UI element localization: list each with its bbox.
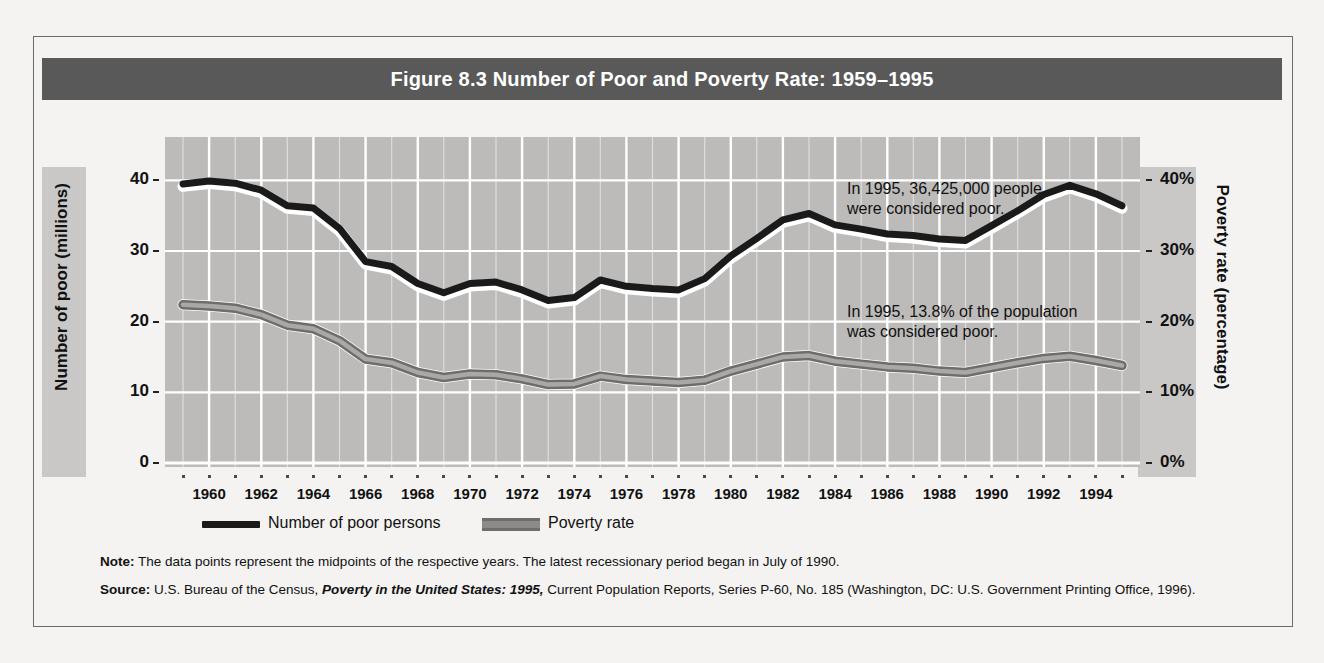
x-axis-tick-mark [182,475,185,478]
x-axis-tick-mark [677,475,680,478]
x-axis-tick-mark [938,475,941,478]
page-title: Figure 8.3 Number of Poor and Poverty Ra… [42,58,1282,100]
x-axis-tick-mark [312,475,315,478]
source-publication-title: Poverty in the United States: 1995, [322,582,543,597]
x-axis-tick-mark [625,475,628,478]
x-axis-tick-mark [390,475,393,478]
x-axis-tick-label: 1980 [704,485,758,502]
y2-axis-title: Poverty rate (percentage) [1212,137,1232,437]
x-axis-tick-label: 1988 [912,485,966,502]
x-axis-tick-mark [729,475,732,478]
x-axis-tick-label: 1966 [339,485,393,502]
y2-axis-tick-mark [1146,321,1152,323]
y-axis-tick-label: 40 [103,169,149,189]
annotation-poor-count-1995: In 1995, 36,425,000 people were consider… [847,179,1042,219]
x-axis-tick-mark [860,475,863,478]
x-axis-tick-label: 1990 [965,485,1019,502]
source-label: Source: [100,582,150,597]
chart-container: Number of poor (millions) Poverty rate (… [42,127,1282,487]
y-axis-tick-mark [153,321,159,323]
x-axis-tick-label: 1992 [1017,485,1071,502]
y-axis-title: Number of poor (millions) [52,137,72,437]
x-axis-tick-mark [651,475,654,478]
x-axis-tick-mark [1068,475,1071,478]
y2-axis-tick-mark [1146,391,1152,393]
x-axis-tick-mark [260,475,263,478]
x-axis-tick-label: 1984 [808,485,862,502]
note-line: Note: The data points represent the midp… [100,552,1230,571]
y-axis-tick-mark [153,179,159,181]
x-axis-tick-mark [547,475,550,478]
y-axis-tick-mark [153,462,159,464]
y-axis-tick-mark [153,250,159,252]
x-axis-tick-mark [755,475,758,478]
chart-legend: Number of poor persons Poverty rate [42,512,1282,544]
figure-page: Figure 8.3 Number of Poor and Poverty Ra… [0,0,1324,663]
x-axis-tick-mark [208,475,211,478]
source-post: Current Population Reports, Series P-60,… [543,582,1195,597]
note-text: The data points represent the midpoints … [135,554,840,569]
y2-axis-tick-mark [1146,179,1152,181]
y2-axis-tick-label: 30% [1160,240,1214,260]
x-axis-tick-mark [1094,475,1097,478]
x-axis-tick-label: 1968 [391,485,445,502]
y2-axis-tick-label: 0% [1160,452,1214,472]
x-axis-tick-label: 1960 [182,485,236,502]
x-axis-tick-mark [1121,475,1124,478]
x-axis-tick-label: 1986 [860,485,914,502]
x-axis-tick-mark [286,475,289,478]
y-axis-tick-label: 0 [103,452,149,472]
x-axis-tick-mark [416,475,419,478]
x-axis-tick-mark [781,475,784,478]
y-axis-tick-label: 20 [103,311,149,331]
legend-swatch-black-line-icon [202,521,260,528]
x-axis-tick-mark [912,475,915,478]
x-axis-tick-label: 1994 [1069,485,1123,502]
x-axis-tick-label: 1962 [234,485,288,502]
x-axis-tick-mark [234,475,237,478]
x-axis-tick-mark [495,475,498,478]
x-axis-tick-mark [834,475,837,478]
x-axis-tick-label: 1972 [495,485,549,502]
x-axis-tick-mark [521,475,524,478]
y-axis-tick-label: 30 [103,240,149,260]
figure-title-bar: Figure 8.3 Number of Poor and Poverty Ra… [42,58,1282,100]
x-axis-tick-label: 1964 [286,485,340,502]
x-axis-tick-mark [808,475,811,478]
x-axis-tick-mark [1016,475,1019,478]
x-axis-tick-label: 1976 [599,485,653,502]
x-axis-tick-mark [573,475,576,478]
x-axis-tick-mark [442,475,445,478]
x-axis-tick-mark [886,475,889,478]
x-axis-tick-label: 1982 [756,485,810,502]
legend-label: Number of poor persons [268,514,441,532]
source-line: Source: U.S. Bureau of the Census, Pover… [100,580,1230,599]
note-label: Note: [100,554,135,569]
x-axis-tick-label: 1970 [443,485,497,502]
y-axis-tick-mark [153,391,159,393]
x-axis-tick-mark [703,475,706,478]
legend-swatch-grey-double-line-icon [482,518,540,531]
x-axis-tick-mark [338,475,341,478]
y2-axis-tick-label: 20% [1160,311,1214,331]
x-axis-tick-label: 1974 [547,485,601,502]
legend-label: Poverty rate [548,514,634,532]
y2-axis-tick-mark [1146,462,1152,464]
x-axis-tick-mark [990,475,993,478]
x-axis-tick-mark [468,475,471,478]
y2-axis-tick-mark [1146,250,1152,252]
y2-axis-tick-label: 10% [1160,381,1214,401]
x-axis-tick-label: 1978 [652,485,706,502]
source-pre: U.S. Bureau of the Census, [150,582,322,597]
x-axis-tick-mark [1042,475,1045,478]
y-axis-tick-label: 10 [103,381,149,401]
x-axis-tick-mark [599,475,602,478]
y2-axis-tick-label: 40% [1160,169,1214,189]
figure-notes: Note: The data points represent the midp… [100,552,1230,599]
x-axis-tick-mark [364,475,367,478]
annotation-poverty-rate-1995: In 1995, 13.8% of the population was con… [847,302,1077,342]
x-axis-tick-mark [964,475,967,478]
